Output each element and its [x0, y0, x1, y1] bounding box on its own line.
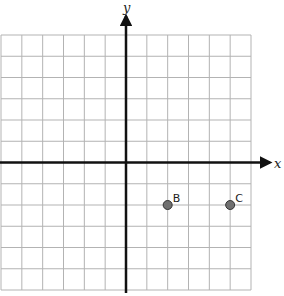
coordinate-plane: xy BC [0, 0, 284, 296]
point-b [163, 201, 172, 210]
point-label-b: B [173, 192, 181, 205]
points: BC [163, 192, 243, 210]
y-axis-label: y [122, 0, 131, 15]
x-axis-label: x [274, 156, 282, 171]
point-c [226, 201, 235, 210]
point-label-c: C [235, 192, 243, 205]
